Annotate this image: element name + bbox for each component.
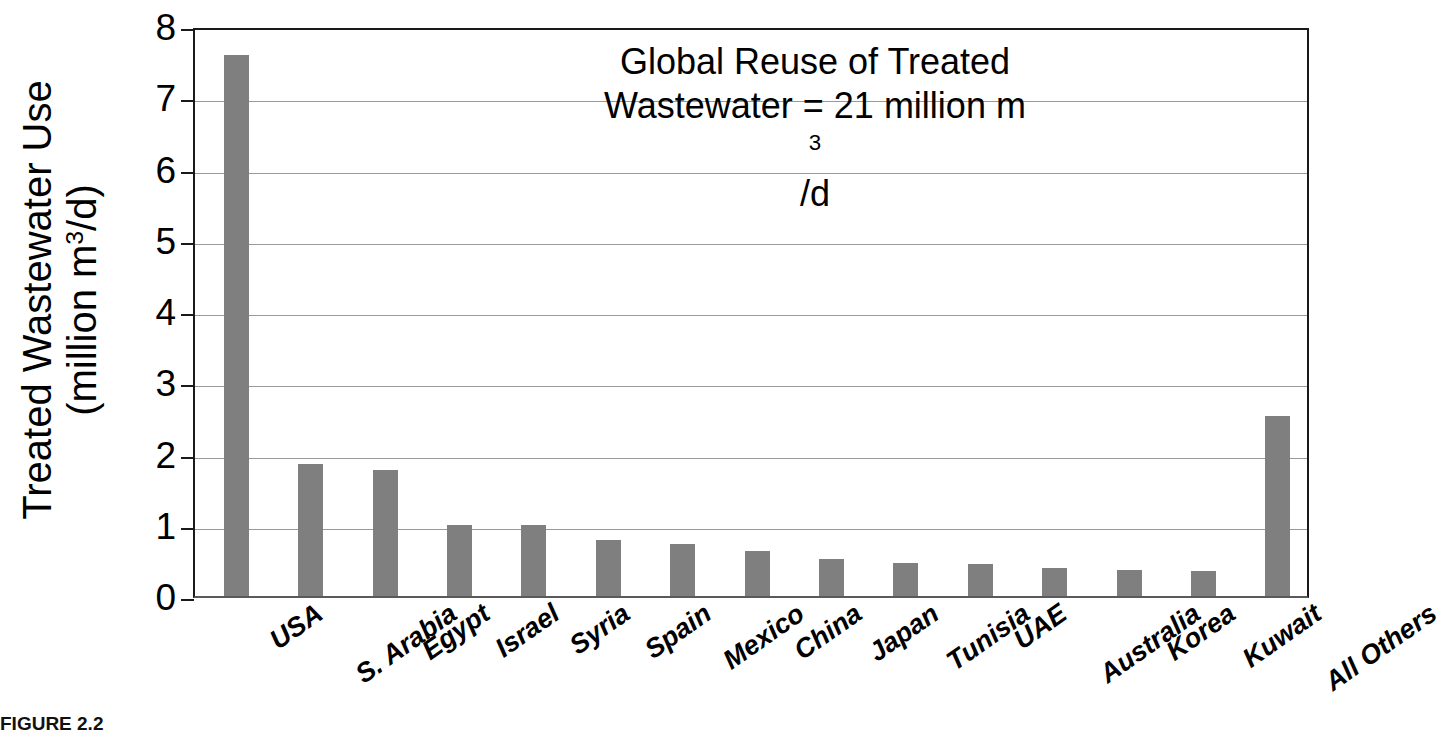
bar	[596, 540, 621, 596]
x-axis-tick-label: All Others	[1319, 598, 1441, 697]
annotation-exponent: 3	[809, 130, 821, 155]
y-axis-tick-label: 1	[130, 508, 176, 545]
bar	[521, 525, 546, 596]
y-axis-title-line2-prefix: (million m	[60, 245, 104, 416]
annotation-line2-suffix: /d	[520, 172, 1110, 216]
bar	[224, 55, 249, 597]
y-axis-tick-mark	[181, 100, 194, 102]
bar	[1265, 416, 1290, 596]
y-axis-tick-label: 3	[130, 365, 176, 402]
y-axis-tick-label: 0	[130, 579, 176, 616]
bar	[745, 551, 770, 596]
y-axis-tick-label: 8	[130, 9, 176, 46]
x-axis-tick-label: Israel	[490, 598, 566, 664]
y-axis-title-line2-suffix: /d)	[60, 184, 104, 231]
gridline	[195, 386, 1307, 387]
y-axis-tick-label: 2	[130, 437, 176, 474]
x-axis-tick-label: Japan	[864, 598, 946, 668]
bar	[298, 464, 323, 596]
x-axis-tick-label: Syria	[564, 598, 636, 661]
gridline	[195, 458, 1307, 459]
gridline	[195, 244, 1307, 245]
annotation-line2-prefix: Wastewater = 21 million m	[520, 84, 1110, 128]
x-axis-tick-label: Spain	[639, 598, 717, 666]
y-axis-tick-labels: 876543210	[118, 0, 176, 620]
annotation-line1: Global Reuse of Treated	[520, 40, 1110, 84]
x-axis-tick-label: Kuwait	[1237, 598, 1327, 674]
x-axis-tick-label: USA	[264, 598, 328, 656]
bar	[447, 525, 472, 596]
bar	[968, 564, 993, 596]
chart-annotation: Global Reuse of Treated Wastewater = 21 …	[520, 40, 1110, 216]
y-axis-tick-mark	[181, 29, 194, 31]
y-axis-title-exponent: 3	[61, 231, 88, 245]
y-axis-tick-mark	[181, 172, 194, 174]
bar	[1191, 571, 1216, 596]
bar	[819, 559, 844, 596]
y-axis-tick-mark	[181, 457, 194, 459]
annotation-line2: Wastewater = 21 million m3/d	[520, 84, 1110, 216]
x-axis-tick-label: China	[789, 598, 868, 666]
y-axis-tick-label: 7	[130, 80, 176, 117]
gridline	[195, 529, 1307, 530]
y-axis-tick-label: 6	[130, 152, 176, 189]
y-axis-tick-mark	[181, 243, 194, 245]
y-axis-tick-mark	[181, 314, 194, 316]
gridline	[195, 315, 1307, 316]
figure-caption: FIGURE 2.2	[0, 713, 1320, 737]
y-axis-tick-label: 5	[130, 223, 176, 260]
bar	[1117, 570, 1142, 596]
y-axis-tick-mark	[181, 528, 194, 530]
bar	[893, 563, 918, 596]
y-axis-title-line2: (million m3/d)	[60, 80, 105, 519]
y-axis-tick-mark	[181, 385, 194, 387]
bar	[1042, 568, 1067, 597]
y-axis-tick-label: 4	[130, 294, 176, 331]
x-axis-tick-labels: USAS. ArabiaEgyptIsraelSyriaSpainMexicoC…	[193, 598, 1309, 703]
y-axis-title: Treated Wastewater Use (million m3/d)	[0, 0, 120, 600]
bar	[373, 470, 398, 596]
bar	[670, 544, 695, 596]
y-axis-title-line1: Treated Wastewater Use	[15, 80, 60, 519]
